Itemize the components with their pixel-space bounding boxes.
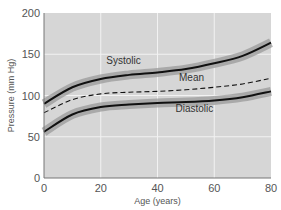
x-axis-ticks: 020406080 xyxy=(41,182,277,194)
x-tick-label: 20 xyxy=(95,182,107,194)
x-tick-label: 80 xyxy=(265,182,277,194)
y-axis-ticks: 050100150200 xyxy=(22,7,40,184)
x-axis-label: Age (years) xyxy=(134,196,181,206)
y-tick-label: 0 xyxy=(34,172,40,184)
y-tick-label: 200 xyxy=(22,7,40,19)
x-tick-label: 60 xyxy=(208,182,220,194)
x-tick-label: 40 xyxy=(151,182,163,194)
mean-label: Mean xyxy=(179,72,204,83)
diastolic-label: Diastolic xyxy=(175,103,213,114)
systolic-label: Systolic xyxy=(106,55,140,66)
y-tick-label: 100 xyxy=(22,90,40,102)
blood-pressure-chart: 050100150200 020406080 Age (years) Press… xyxy=(0,0,281,210)
y-axis-label: Pressure (mm Hg) xyxy=(6,59,16,133)
x-tick-label: 0 xyxy=(41,182,47,194)
y-tick-label: 50 xyxy=(28,131,40,143)
y-tick-label: 150 xyxy=(22,48,40,60)
